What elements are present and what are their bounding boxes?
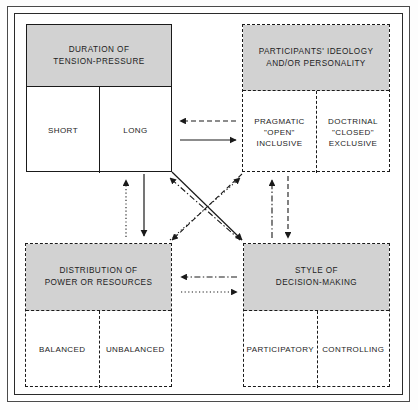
factor-cell-distribution-1: UNBALANCED xyxy=(99,311,172,388)
factor-box-distribution: DISTRIBUTION OF POWER OR RESOURCESBALANC… xyxy=(25,243,172,387)
factor-title-ideology: PARTICIPANTS' IDEOLOGY AND/OR PERSONALIT… xyxy=(243,25,389,91)
factor-cell-ideology-1: DOCTRINAL "CLOSED" EXCLUSIVE xyxy=(316,91,389,173)
factor-title-duration: DURATION OF TENSION-PRESSURE xyxy=(27,25,171,87)
factor-cells-style: PARTICIPATORYCONTROLLING xyxy=(244,311,389,388)
factor-cell-style-0: PARTICIPATORY xyxy=(244,311,317,388)
factor-cell-duration-0: SHORT xyxy=(27,87,99,173)
factor-cell-style-1: CONTROLLING xyxy=(317,311,390,388)
factor-title-distribution: DISTRIBUTION OF POWER OR RESOURCES xyxy=(26,244,171,311)
factor-cell-label: SHORT xyxy=(48,125,78,136)
factor-title-style: STYLE OF DECISION-MAKING xyxy=(244,244,389,311)
factor-cell-label: PARTICIPATORY xyxy=(247,344,314,355)
diagram-canvas: DURATION OF TENSION-PRESSURESHORTLONGPAR… xyxy=(0,0,418,410)
factor-cells-duration: SHORTLONG xyxy=(27,87,171,173)
factor-title-text: PARTICIPANTS' IDEOLOGY AND/OR PERSONALIT… xyxy=(259,46,374,70)
factor-cell-distribution-0: BALANCED xyxy=(26,311,99,388)
factor-title-text: DURATION OF TENSION-PRESSURE xyxy=(53,44,144,68)
factor-title-text: DISTRIBUTION OF POWER OR RESOURCES xyxy=(45,265,153,289)
factor-cell-label: DOCTRINAL "CLOSED" EXCLUSIVE xyxy=(328,116,378,149)
factor-box-ideology: PARTICIPANTS' IDEOLOGY AND/OR PERSONALIT… xyxy=(242,24,390,172)
factor-cell-label: PRAGMATIC "OPEN" INCLUSIVE xyxy=(254,116,305,149)
factor-cells-ideology: PRAGMATIC "OPEN" INCLUSIVEDOCTRINAL "CLO… xyxy=(243,91,389,173)
factor-cell-duration-1: LONG xyxy=(99,87,171,173)
factor-cells-distribution: BALANCEDUNBALANCED xyxy=(26,311,171,388)
factor-cell-label: CONTROLLING xyxy=(322,344,384,355)
factor-box-duration: DURATION OF TENSION-PRESSURESHORTLONG xyxy=(26,24,172,172)
factor-cell-ideology-0: PRAGMATIC "OPEN" INCLUSIVE xyxy=(243,91,316,173)
factor-title-text: STYLE OF DECISION-MAKING xyxy=(276,265,357,289)
factor-cell-label: UNBALANCED xyxy=(106,344,165,355)
factor-cell-label: LONG xyxy=(123,125,147,136)
factor-box-style: STYLE OF DECISION-MAKINGPARTICIPATORYCON… xyxy=(243,243,390,387)
factor-cell-label: BALANCED xyxy=(39,344,85,355)
